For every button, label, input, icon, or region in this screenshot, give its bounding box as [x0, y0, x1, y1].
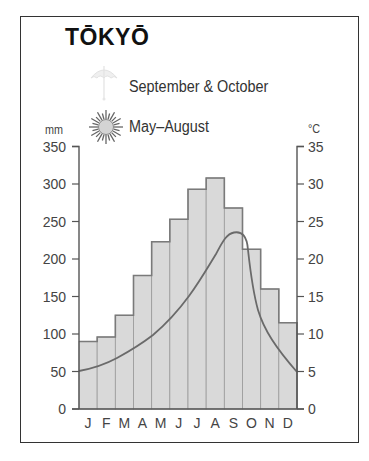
month-label: A [134, 415, 152, 431]
month-label: S [224, 415, 242, 431]
left-tick-label: 350 [36, 140, 66, 154]
right-tick-label: 30 [308, 177, 338, 191]
month-label: J [170, 415, 188, 431]
right-tick-label: 0 [308, 402, 338, 416]
left-tick-label: 300 [36, 177, 66, 191]
left-tick-label: 200 [36, 252, 66, 266]
left-tick-label: 250 [36, 215, 66, 229]
left-tick-label: 50 [36, 365, 66, 379]
month-label: M [152, 415, 170, 431]
umbrella-icon [91, 66, 117, 101]
right-tick-label: 25 [308, 215, 338, 229]
right-tick-label: 10 [308, 327, 338, 341]
right-tick-label: 15 [308, 290, 338, 304]
month-label: A [206, 415, 224, 431]
left-tick-label: 150 [36, 290, 66, 304]
precip-bar [188, 189, 206, 409]
month-label: N [261, 415, 279, 431]
precip-bar [170, 219, 188, 409]
month-label: M [115, 415, 133, 431]
precip-bar [261, 289, 279, 409]
precip-bar [79, 342, 97, 410]
month-label: J [188, 415, 206, 431]
precip-bar [224, 208, 242, 409]
month-label: J [79, 415, 97, 431]
right-tick-label: 5 [308, 365, 338, 379]
right-axis-unit: °C [308, 122, 320, 136]
left-tick-label: 100 [36, 327, 66, 341]
legend-label-rain: September & October [129, 78, 268, 96]
plot-area [72, 147, 304, 410]
left-axis [72, 147, 79, 410]
left-tick-label: 0 [36, 402, 66, 416]
legend-label-sun: May–August [129, 118, 209, 136]
precip-bar [97, 337, 115, 409]
right-tick-label: 20 [308, 252, 338, 266]
month-label: F [97, 415, 115, 431]
precip-bar [152, 242, 170, 409]
right-tick-label: 35 [308, 140, 338, 154]
left-axis-unit: mm [45, 123, 63, 137]
precip-bar [279, 323, 297, 409]
month-label: O [243, 415, 261, 431]
month-label: D [279, 415, 297, 431]
chart-canvas [0, 0, 369, 461]
precip-bar [115, 315, 133, 409]
right-axis [297, 147, 304, 410]
precip-bar [206, 178, 224, 409]
sun-icon [89, 110, 123, 144]
